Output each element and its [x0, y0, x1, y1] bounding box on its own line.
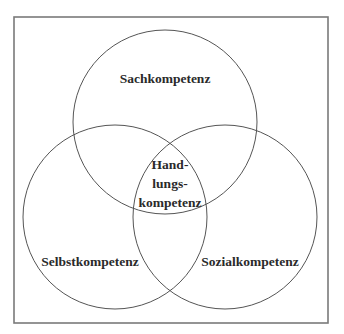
label-handlungskompetenz-line-1: Hand-	[152, 157, 189, 172]
label-handlungskompetenz-line-2: lungs-	[152, 176, 187, 191]
label-selbstkompetenz: Selbstkompetenz	[41, 254, 139, 269]
label-handlungskompetenz-line-3: kompetenz	[139, 195, 202, 210]
venn-diagram: Sachkompetenz Selbstkompetenz Sozialkomp…	[0, 0, 344, 334]
label-sachkompetenz: Sachkompetenz	[120, 71, 211, 86]
label-sozialkompetenz: Sozialkompetenz	[201, 254, 299, 269]
